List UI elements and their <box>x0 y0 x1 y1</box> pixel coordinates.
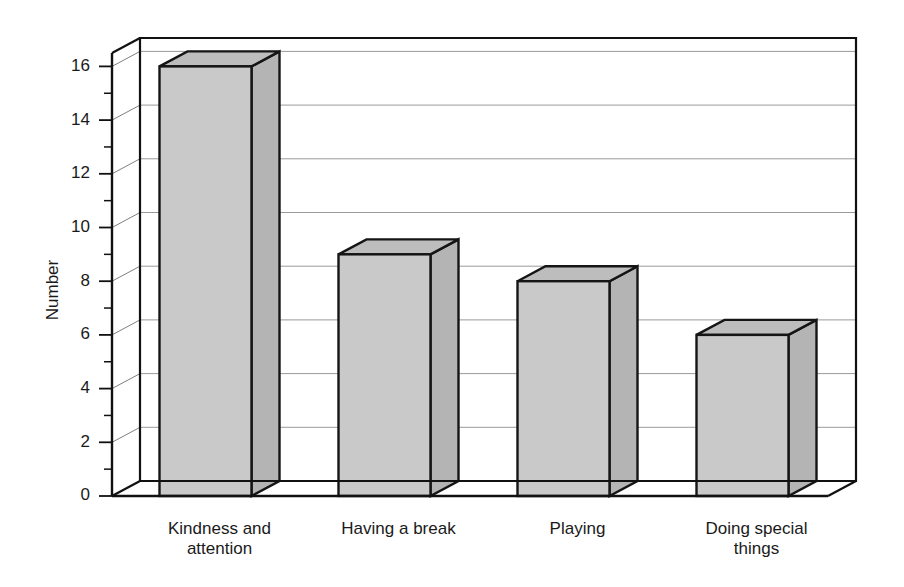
bar-side-face <box>431 239 459 496</box>
bar-front-face <box>160 66 252 496</box>
y-tick-label: 2 <box>81 432 90 451</box>
x-category-label-line: Having a break <box>341 519 456 538</box>
x-axis-category-labels: Kindness andattentionHaving a breakPlayi… <box>168 519 808 558</box>
y-axis-ticks <box>99 66 112 496</box>
y-axis-tick-labels: 0246810121416 <box>71 56 90 505</box>
x-category-label: Doing specialthings <box>705 519 807 558</box>
bar <box>160 51 280 496</box>
y-tick-label: 8 <box>81 271 90 290</box>
bar-chart-3d: 0246810121416 Number Kindness andattenti… <box>0 0 904 587</box>
x-category-label: Playing <box>550 519 606 538</box>
y-tick-label: 4 <box>81 378 90 397</box>
y-tick-label: 0 <box>81 485 90 504</box>
bar-side-face <box>610 266 638 496</box>
x-category-label-line: Doing special <box>705 519 807 538</box>
y-tick-label: 14 <box>71 110 90 129</box>
x-category-label: Having a break <box>341 519 456 538</box>
y-axis-title-text: Number <box>43 259 62 320</box>
x-category-label: Kindness andattention <box>168 519 271 558</box>
bar <box>518 266 638 496</box>
bar-side-face <box>252 51 280 496</box>
y-tick-label: 10 <box>71 217 90 236</box>
bar <box>339 239 459 496</box>
y-tick-label: 16 <box>71 56 90 75</box>
y-axis-title: Number <box>43 259 62 320</box>
bar-front-face <box>518 281 610 496</box>
left-wall-face <box>112 38 140 496</box>
bar-front-face <box>697 335 789 496</box>
y-tick-label: 12 <box>71 163 90 182</box>
bar-front-face <box>339 254 431 496</box>
x-category-label-line: things <box>734 539 779 558</box>
y-tick-label: 6 <box>81 324 90 343</box>
x-category-label-line: attention <box>187 539 252 558</box>
x-category-label-line: Kindness and <box>168 519 271 538</box>
chart-container: 0246810121416 Number Kindness andattenti… <box>0 0 904 587</box>
x-category-label-line: Playing <box>550 519 606 538</box>
bar <box>697 320 817 496</box>
bar-side-face <box>789 320 817 496</box>
